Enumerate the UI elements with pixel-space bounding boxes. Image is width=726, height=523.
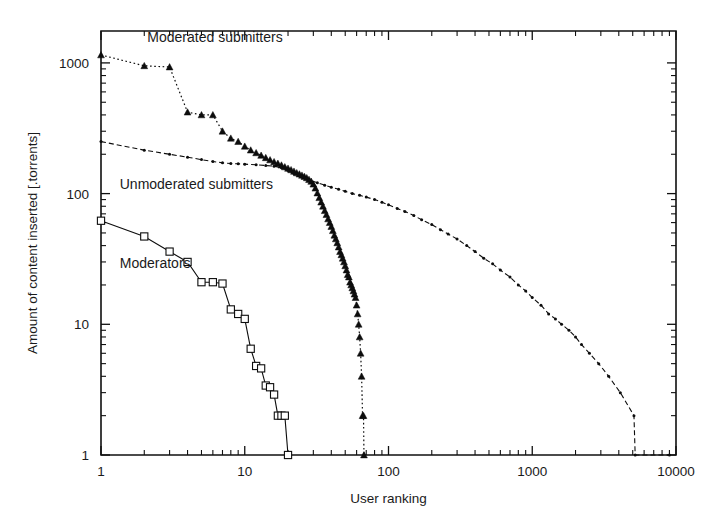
series-marker-dot [517,283,520,286]
series-marker-dot [588,352,591,355]
series-marker-dot [308,179,311,182]
series-label-3: Moderators [120,255,191,271]
series-marker-dot [447,233,450,236]
series-marker-dot [632,414,635,417]
series-marker-dot [100,140,103,143]
series-marker-square [241,315,248,322]
series-marker-dot [531,296,534,299]
series-marker-square [266,384,273,391]
series-marker-dot [668,454,671,457]
series-marker-dot [491,262,494,265]
series-marker-dot [524,289,527,292]
series-label-2: Unmoderated submitters [120,176,273,192]
x-tick-label: 1000 [517,464,547,479]
series-marker-dot [168,153,171,156]
series-marker-dot [412,214,415,217]
series-marker-square [141,233,148,240]
series-marker-dot [287,169,290,172]
series-marker-dot [243,163,246,166]
series-marker-dot [143,149,146,152]
series-marker-dot [560,323,563,326]
y-tick-label: 100 [66,187,89,202]
series-marker-dot [300,175,303,178]
series-marker-dot [508,276,511,279]
series-marker-dot [619,391,622,394]
series-marker-dot [499,269,502,272]
series-marker-square [227,306,234,313]
series-marker-dot [482,257,485,260]
series-marker-dot [237,162,240,165]
series-marker-dot [264,164,267,167]
series-marker-dot [330,186,333,189]
series-marker-square [198,279,205,286]
series-marker-square [284,451,291,458]
chart-background [0,0,726,523]
x-tick-label: 100 [377,464,400,479]
series-marker-dot [358,194,361,197]
y-tick-label: 1 [81,448,89,463]
series-marker-dot [273,165,276,168]
series-marker-dot [474,250,477,253]
series-marker-dot [439,228,442,231]
x-axis-title: User ranking [350,491,427,506]
series-marker-dot [634,454,637,457]
series-marker-dot [597,362,600,365]
series-marker-square [219,280,226,287]
series-marker-dot [365,196,368,199]
series-marker-dot [200,158,203,161]
series-marker-square [97,217,104,224]
series-marker-dot [337,188,340,191]
y-tick-label: 10 [74,317,89,332]
series-marker-dot [292,172,295,175]
series-label-1: Moderated submitters [147,29,282,45]
series-marker-dot [403,210,406,213]
x-tick-label: 10000 [657,464,695,479]
series-marker-dot [567,329,570,332]
series-marker-dot [574,335,577,338]
series-marker-dot [323,184,326,187]
series-marker-dot [221,161,224,164]
series-marker-dot [554,317,557,320]
x-tick-label: 10 [237,464,252,479]
series-marker-dot [344,190,347,193]
series-marker-square [209,279,216,286]
series-marker-dot [420,218,423,221]
series-marker-dot [456,237,459,240]
series-marker-dot [396,207,399,210]
y-tick-label: 1000 [59,56,89,71]
series-marker-dot [547,312,550,315]
series-marker-dot [465,244,468,247]
series-marker-square [247,345,254,352]
series-marker-dot [373,198,376,201]
log-log-rank-distribution-chart: 1101001000100001101001000 User ranking A… [0,0,726,523]
series-marker-dot [387,203,390,206]
series-marker-square [270,391,277,398]
series-marker-dot [280,166,283,169]
series-marker-dot [580,343,583,346]
x-tick-label: 1 [97,464,105,479]
series-marker-square [258,365,265,372]
series-marker-dot [255,163,258,166]
series-marker-dot [229,162,232,165]
series-marker-dot [211,160,214,163]
y-axis-title: Amount of content inserted [.torrents] [25,132,40,354]
series-marker-dot [316,181,319,184]
series-marker-dot [539,304,542,307]
series-marker-dot [186,156,189,159]
series-marker-square [281,412,288,419]
series-marker-dot [430,223,433,226]
series-marker-dot [380,201,383,204]
series-marker-dot [607,375,610,378]
series-marker-dot [351,192,354,195]
chart-figure: 1101001000100001101001000 User ranking A… [0,0,726,523]
